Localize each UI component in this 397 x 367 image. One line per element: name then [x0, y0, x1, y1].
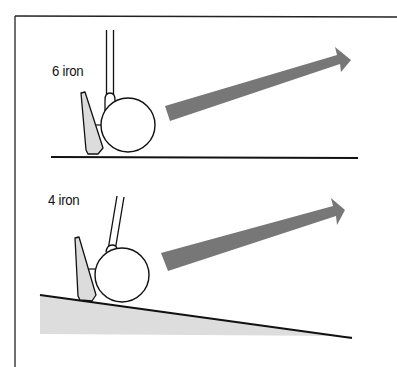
golf-ball [101, 98, 155, 152]
trajectory-arrow [165, 47, 351, 121]
club-label-4-iron: 4 iron [48, 191, 79, 208]
club-head [81, 92, 103, 154]
club-shaft [106, 196, 124, 254]
golf-ball [95, 248, 149, 302]
club-shaft [105, 30, 115, 112]
flat-ground-line [51, 157, 358, 158]
golf-club-diagram [0, 0, 397, 367]
panel-4-iron [40, 196, 352, 338]
panel-6-iron [51, 30, 358, 158]
trajectory-arrow [161, 198, 345, 271]
frame-top-border [15, 16, 397, 17]
club-label-6-iron: 6 iron [52, 62, 83, 79]
